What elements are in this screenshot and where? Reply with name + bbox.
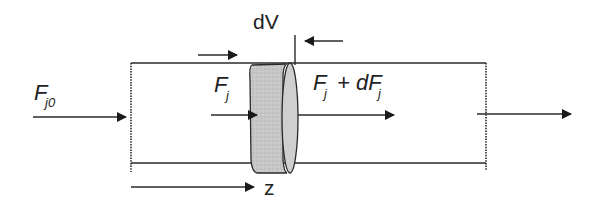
inlet-flow-subscript: j0: [43, 95, 56, 110]
pfr-diagram: dV F j0 F j F j + dF j z: [0, 0, 602, 208]
z-axis-label: z: [264, 176, 275, 199]
differential-volume-disc: [250, 63, 298, 173]
dv-label: dV: [253, 10, 279, 33]
flow-out-plus-label: + dF: [337, 70, 383, 95]
